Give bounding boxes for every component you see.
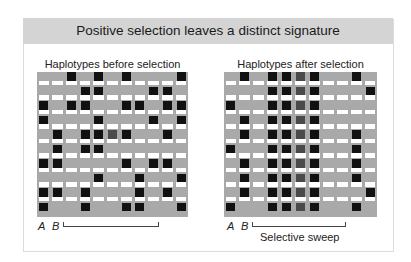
before-gap-cell (135, 139, 146, 144)
after-snp-marker (240, 188, 249, 197)
after-gap-cell (351, 197, 362, 202)
before-gap-cell (162, 81, 173, 86)
after-snp-marker (268, 116, 277, 125)
before-gap-cell (176, 110, 187, 115)
before-gap-cell (80, 168, 91, 173)
after-gap-cell (365, 110, 376, 115)
after-gap-cell (295, 110, 306, 115)
before-gap-cell (39, 81, 50, 86)
after-gap-cell (365, 139, 376, 144)
after-gap-cell (239, 168, 250, 173)
before-gap-cell (52, 153, 63, 158)
before-gap-cell (39, 153, 50, 158)
before-gap-cell (80, 110, 91, 115)
after-gap-cell (239, 182, 250, 187)
after-snp-marker (310, 203, 319, 212)
after-snp-marker (296, 116, 305, 125)
before-gap-cell (148, 139, 159, 144)
before-gap-cell (107, 182, 118, 187)
before-gap-cell (135, 81, 146, 86)
before-gap-cell (39, 168, 50, 173)
after-gap-cell (226, 95, 237, 100)
after-snp-marker (296, 101, 305, 110)
after-gap-cell (309, 182, 320, 187)
before-gap-cell (176, 81, 187, 86)
before-gap-cell (93, 110, 104, 115)
after-gap-cell (239, 81, 250, 86)
marker-b-before: B (52, 220, 59, 232)
before-gap-cell (148, 110, 159, 115)
after-gap-cell (239, 197, 250, 202)
before-gap-cell (121, 182, 132, 187)
after-snp-marker (268, 72, 277, 81)
before-snp-marker (163, 87, 172, 96)
after-snp-marker (240, 130, 249, 139)
before-gap-cell (39, 182, 50, 187)
before-gap-cell (176, 95, 187, 100)
before-gap-cell (162, 153, 173, 158)
before-snp-marker (108, 130, 117, 139)
before-snp-marker (149, 87, 158, 96)
marker-b-after: B (241, 220, 248, 232)
before-gap-cell (162, 110, 173, 115)
after-gap-cell (323, 124, 334, 129)
before-gap-cell (80, 153, 91, 158)
after-label: Haplotypes after selection (218, 58, 383, 70)
after-gap-cell (295, 153, 306, 158)
after-snp-marker (268, 203, 277, 212)
after-gap-cell (337, 124, 348, 129)
after-snp-marker (296, 159, 305, 168)
after-gap-cell (267, 153, 278, 158)
after-gap-cell (226, 124, 237, 129)
before-snp-marker (177, 101, 186, 110)
marker-a-after: A (227, 220, 234, 232)
before-gap-cell (148, 124, 159, 129)
after-gap-cell (337, 139, 348, 144)
before-snp-marker (122, 101, 131, 110)
after-snp-marker (282, 174, 291, 183)
after-gap-cell (365, 197, 376, 202)
before-gap-cell (52, 124, 63, 129)
before-snp-marker (135, 101, 144, 110)
before-snp-marker (39, 116, 48, 125)
after-gap-cell (226, 182, 237, 187)
after-gap-cell (337, 182, 348, 187)
after-gap-cell (253, 139, 264, 144)
after-gap-cell (295, 95, 306, 100)
after-gap-cell (253, 168, 264, 173)
before-gap-cell (107, 124, 118, 129)
after-snp-marker (310, 116, 319, 125)
marker-a-before: A (38, 220, 45, 232)
before-gap-cell (107, 139, 118, 144)
after-snp-marker (310, 101, 319, 110)
after-snp-marker (296, 87, 305, 96)
before-snp-marker (135, 188, 144, 197)
before-snp-marker (67, 72, 76, 81)
before-gap-cell (93, 168, 104, 173)
after-gap-cell (226, 197, 237, 202)
after-gap-cell (323, 197, 334, 202)
after-gap-cell (295, 139, 306, 144)
after-gap-cell (267, 124, 278, 129)
after-snp-marker (296, 188, 305, 197)
after-snp-marker (282, 203, 291, 212)
before-snp-marker (163, 130, 172, 139)
before-gap-cell (66, 197, 77, 202)
before-snp-marker (94, 174, 103, 183)
after-gap-cell (295, 124, 306, 129)
before-gap-cell (66, 168, 77, 173)
after-gap-cell (253, 182, 264, 187)
after-gap-cell (281, 110, 292, 115)
before-snp-marker (122, 130, 131, 139)
after-snp-marker (352, 130, 361, 139)
before-gap-cell (93, 81, 104, 86)
after-snp-marker (352, 72, 361, 81)
after-gap-cell (351, 110, 362, 115)
before-snp-marker (81, 188, 90, 197)
after-gap-cell (239, 139, 250, 144)
after-snp-marker (226, 145, 235, 154)
after-gap-cell (295, 182, 306, 187)
after-gap-cell (281, 81, 292, 86)
after-snp-marker (352, 174, 361, 183)
after-gap-cell (281, 124, 292, 129)
